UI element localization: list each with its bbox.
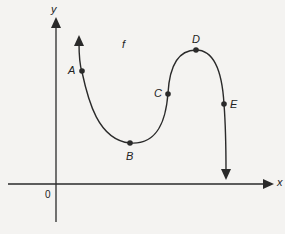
curve-start-arrow-icon [74,35,84,46]
point-c-label: C [154,87,162,99]
x-axis-label: x [277,176,283,188]
y-axis-label: y [51,3,57,15]
function-graph: y x 0 f A B C D E [0,0,285,234]
point-a [79,68,85,74]
function-label: f [122,38,125,50]
point-d [193,47,199,53]
graph-canvas [0,0,285,234]
point-b-label: B [126,150,133,162]
point-e [221,101,227,107]
curve-end-arrow-icon [221,169,231,180]
point-b [127,140,133,146]
curve-f [79,42,226,172]
y-axis-arrow-icon [51,17,61,28]
x-axis-arrow-icon [263,179,274,189]
point-e-label: E [230,98,237,110]
point-d-label: D [192,33,200,45]
point-a-label: A [68,64,75,76]
point-c [165,91,171,97]
origin-label: 0 [45,189,51,200]
